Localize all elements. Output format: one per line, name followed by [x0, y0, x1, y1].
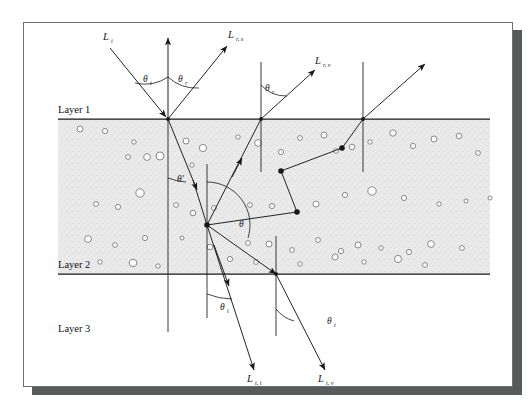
ray-label-sub-incident: i — [111, 37, 113, 44]
scatter-vertex — [278, 168, 284, 174]
particle — [115, 204, 120, 209]
particle — [199, 144, 206, 151]
particle — [456, 133, 462, 139]
ray-diagram-svg: Layer 1Layer 2Layer 3LiLr, sLr, vLt, iLt… — [0, 0, 530, 405]
particle — [98, 260, 102, 264]
ray-label-transmitted-volume: L — [317, 373, 324, 384]
particle — [248, 203, 253, 208]
ray-label-sub-volume-reflected: r, v — [323, 61, 331, 68]
angle-label-theta-reflected-2: θ — [265, 83, 270, 93]
particle — [394, 255, 401, 262]
particle — [156, 264, 160, 268]
particle — [368, 140, 372, 144]
particle — [102, 128, 107, 133]
particle — [368, 187, 376, 195]
particle — [476, 151, 481, 156]
particle — [236, 135, 240, 139]
particle — [349, 144, 355, 150]
particle — [136, 189, 144, 197]
boundary-point — [259, 117, 263, 121]
particle — [174, 203, 179, 208]
ray-volume-reflected-out — [261, 70, 315, 119]
angle-label-sub-theta-transmitted-2: t — [334, 321, 336, 328]
particle — [321, 132, 327, 138]
particle — [410, 143, 415, 148]
angle-label-theta-prime: θ′ — [177, 174, 185, 184]
layer-label-layer3: Layer 3 — [58, 323, 90, 334]
particle — [85, 236, 92, 243]
particle — [298, 136, 303, 141]
boundary-point — [361, 117, 365, 121]
particle — [246, 241, 251, 246]
scatter-vertex — [204, 222, 210, 228]
particle — [77, 126, 83, 132]
particle — [266, 241, 272, 247]
ray-label-sub-transmitted-direct: t, i — [255, 379, 262, 386]
layer-label-layer2: Layer 2 — [58, 259, 90, 270]
figure-scene: Layer 1Layer 2Layer 3LiLr, sLr, vLt, iLt… — [0, 0, 530, 405]
angle-label-theta-transmitted: θ — [220, 302, 225, 312]
particle — [190, 210, 196, 216]
angle-label-theta-reflected: θ — [178, 74, 183, 84]
particle — [332, 254, 338, 260]
particle — [180, 236, 184, 240]
particle — [269, 203, 274, 208]
ray-label-surface-reflected: L — [227, 29, 234, 40]
ray-surface-reflected — [168, 46, 227, 119]
ray-label-sub-surface-reflected: r, s — [236, 35, 244, 42]
angle-label-sub-theta-transmitted: t — [227, 307, 229, 314]
ray-label-sub-transmitted-volume: t, v — [326, 379, 334, 386]
particle — [338, 248, 343, 253]
particle — [142, 235, 147, 240]
particle — [227, 256, 232, 261]
ray-label-incident: L — [102, 31, 109, 42]
particle — [362, 260, 366, 264]
particle — [126, 155, 131, 160]
particle — [190, 163, 194, 167]
angle-label-theta-incident: θ — [143, 74, 148, 84]
particle — [132, 140, 136, 144]
boundary-point — [166, 117, 170, 121]
particle — [113, 243, 118, 248]
boundary-point — [274, 272, 278, 276]
angle-label-theta-transmitted-2: θ — [327, 316, 332, 326]
particle — [290, 248, 295, 253]
ray-label-transmitted-direct: L — [246, 373, 253, 384]
particle — [94, 202, 99, 207]
angle-label-sub-theta-reflected: r — [185, 79, 188, 86]
particle — [460, 246, 465, 251]
arc-theta-t2 — [276, 309, 294, 321]
particle — [379, 246, 383, 250]
particle — [390, 130, 396, 136]
particle — [342, 192, 347, 197]
particle — [156, 152, 164, 160]
particle — [313, 201, 319, 207]
particle — [298, 262, 302, 266]
angle-label-theta-scatter: θ — [239, 219, 244, 229]
scatter-vertex — [339, 145, 345, 151]
ray-multiple-scatter-out — [363, 64, 425, 119]
arc-theta-t — [207, 294, 232, 299]
particle — [431, 136, 437, 142]
ray-transmitted-volume — [276, 274, 325, 370]
particle — [278, 149, 283, 154]
scattering-medium-slab — [58, 119, 490, 274]
particle — [464, 199, 468, 203]
particle — [423, 263, 428, 268]
particle — [129, 259, 137, 267]
particle — [437, 202, 441, 206]
layer-label-layer1: Layer 1 — [58, 104, 90, 115]
particle — [488, 196, 492, 200]
particle — [406, 249, 411, 254]
ray-label-volume-reflected: L — [314, 55, 321, 66]
angle-label-sub-theta-incident: i — [150, 79, 152, 86]
particle — [183, 138, 189, 144]
particle — [316, 238, 321, 243]
particle — [355, 242, 361, 248]
particle — [207, 244, 213, 250]
particle — [401, 195, 406, 200]
particle — [144, 154, 151, 161]
scatter-vertex — [294, 209, 300, 215]
particle — [255, 140, 262, 147]
particle — [428, 241, 435, 248]
